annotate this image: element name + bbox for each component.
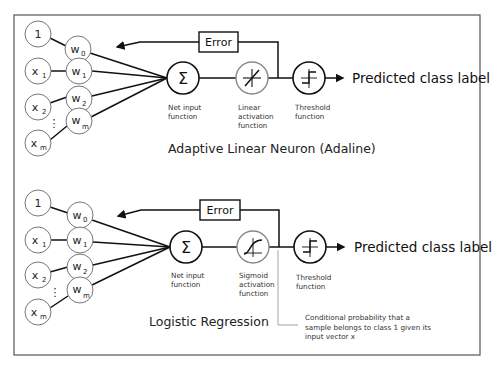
svg-text:w: w (72, 114, 81, 127)
svg-text:x: x (32, 101, 39, 114)
svg-text:x: x (32, 234, 39, 247)
svg-text:w: w (73, 283, 82, 296)
output-label: Predicted class label (352, 70, 490, 86)
input-node-x1: x 1 (25, 227, 51, 253)
ellipsis-icon: ⋮ (49, 117, 60, 130)
sigmoid-activation-node (237, 231, 269, 263)
svg-text:1: 1 (42, 241, 46, 249)
svg-text:w: w (73, 209, 82, 222)
input-node-xm: x m (25, 299, 51, 325)
svg-text:w: w (73, 234, 82, 247)
diagram-canvas: 1 x 1 x 2 ⋮ x m w 0 w 1 (0, 0, 492, 370)
output-label: Predicted class label (354, 239, 492, 255)
svg-text:0: 0 (81, 50, 85, 58)
svg-text:x: x (31, 137, 38, 150)
weight-node-w0: w 0 (67, 202, 93, 228)
adaline-title: Adaptive Linear Neuron (Adaline) (168, 141, 376, 156)
svg-text:1: 1 (35, 28, 42, 41)
sigma-icon: Σ (181, 238, 191, 257)
ellipsis-icon: ⋮ (50, 286, 61, 299)
linear-activation-node (236, 62, 268, 94)
annotation-leader-line (278, 250, 298, 325)
input-node-x1: x 1 (25, 58, 51, 84)
weight-node-w2: w 2 (67, 254, 93, 280)
svg-text:2: 2 (83, 268, 87, 276)
weight-node-w1: w 1 (66, 58, 92, 84)
sigmoid-activation-label: Sigmoid activation function (239, 271, 277, 298)
input-node-x2: x 2 (25, 94, 51, 120)
svg-text:1: 1 (83, 241, 87, 249)
weight-node-wm: w m (67, 277, 93, 303)
adaline-diagram: 1 x 1 x 2 ⋮ x m w 0 w 1 (25, 21, 490, 156)
svg-text:Error: Error (205, 36, 232, 49)
svg-text:1: 1 (42, 72, 46, 80)
conditional-probability-annotation: Conditional probability that a sample be… (305, 313, 433, 341)
sigma-icon: Σ (178, 69, 188, 88)
threshold-label: Threshold function (295, 273, 334, 291)
svg-text:x: x (31, 306, 38, 319)
weight-node-w1: w 1 (67, 227, 93, 253)
net-input-label: Net input function (171, 271, 207, 289)
net-input-sum-node: Σ (167, 62, 199, 94)
svg-text:m: m (40, 313, 47, 321)
svg-text:w: w (73, 260, 82, 273)
svg-text:m: m (40, 144, 47, 152)
error-box: Error (199, 32, 238, 52)
svg-text:w: w (72, 65, 81, 78)
threshold-label: Threshold function (294, 103, 333, 121)
weight-node-wm: w m (66, 108, 92, 134)
input-node-bias: 1 (25, 190, 51, 216)
svg-text:m: m (83, 292, 90, 300)
svg-text:Error: Error (207, 204, 234, 217)
input-node-x2: x 2 (25, 262, 51, 288)
error-box: Error (200, 200, 240, 220)
svg-text:x: x (32, 269, 39, 282)
threshold-node (293, 62, 325, 94)
input-node-xm: x m (25, 130, 51, 156)
logistic-regression-diagram: 1 x 1 x 2 ⋮ x m w 0 w 1 w (25, 190, 492, 341)
svg-text:1: 1 (82, 72, 86, 80)
svg-text:1: 1 (35, 197, 42, 210)
net-input-sum-node: Σ (170, 231, 202, 263)
svg-text:2: 2 (42, 108, 46, 116)
svg-text:w: w (71, 43, 80, 56)
svg-text:2: 2 (82, 100, 86, 108)
svg-text:2: 2 (42, 276, 46, 284)
logistic-regression-title: Logistic Regression (149, 314, 269, 329)
svg-text:m: m (82, 123, 89, 131)
input-node-bias: 1 (25, 21, 51, 47)
linear-activation-label: Linear activation function (238, 103, 276, 130)
svg-text:x: x (32, 65, 39, 78)
svg-text:w: w (72, 92, 81, 105)
threshold-node (294, 231, 326, 263)
svg-text:0: 0 (83, 216, 87, 224)
net-input-label: Net input function (168, 103, 204, 121)
